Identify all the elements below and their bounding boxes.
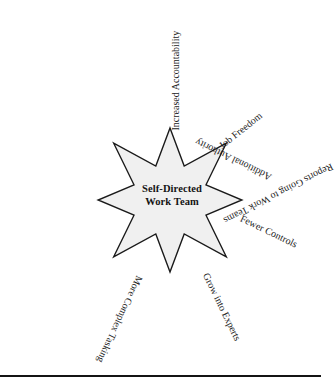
footer-rule — [0, 375, 321, 377]
spoke-label-increased-accountability: Increased Accountability — [170, 31, 181, 131]
